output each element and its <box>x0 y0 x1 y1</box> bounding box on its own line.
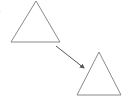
triangle-transformed <box>77 52 121 95</box>
transformation-diagram <box>0 0 122 99</box>
transformation-arrow <box>56 46 84 68</box>
triangle-original <box>11 1 60 42</box>
